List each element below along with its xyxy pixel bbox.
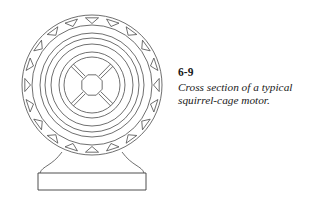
stator-slot-triangle bbox=[65, 143, 77, 150]
stator-slot-triangle bbox=[107, 143, 119, 150]
stator-slot-triangle bbox=[26, 58, 33, 70]
stator-slot-triangle bbox=[126, 135, 137, 143]
figure-page: 6-9 Cross section of a typical squirrel-… bbox=[0, 0, 336, 200]
figure-caption-block: 6-9 Cross section of a typical squirrel-… bbox=[178, 66, 330, 106]
stator-outer-frame bbox=[22, 15, 162, 155]
stator-slot-triangle bbox=[154, 78, 160, 91]
figure-number: 6-9 bbox=[178, 66, 330, 79]
caption-line-1: Cross section of a typical bbox=[178, 81, 330, 94]
concentric-rings-group bbox=[22, 15, 162, 155]
stator-slot-triangle bbox=[126, 27, 137, 35]
air-gap-ring bbox=[51, 44, 133, 126]
stator-slot-triangle bbox=[142, 40, 150, 51]
figure-caption-text: Cross section of a typical squirrel-cage… bbox=[178, 81, 330, 106]
stator-slot-triangle bbox=[47, 135, 58, 143]
stator-slot-triangle bbox=[47, 27, 58, 35]
stator-slot-triangle bbox=[150, 100, 157, 112]
stator-slot-triangle bbox=[25, 78, 31, 91]
stator-slot-triangle bbox=[142, 119, 150, 130]
rotor-inner bbox=[64, 57, 120, 113]
stator-slot-triangle bbox=[34, 40, 42, 51]
stator-slot-triangle bbox=[34, 119, 42, 130]
stator-slot-triangle bbox=[65, 19, 77, 26]
stator-core-outer bbox=[40, 33, 144, 137]
stator-slot-triangle bbox=[107, 19, 119, 26]
rotor-outer bbox=[59, 52, 125, 118]
stator-slot-triangle bbox=[85, 18, 98, 24]
stator-slot-triangle bbox=[26, 100, 33, 112]
stator-slot-triangle bbox=[85, 147, 98, 153]
base-plate bbox=[38, 173, 146, 190]
rotor-spokes-group bbox=[71, 64, 113, 106]
stator-slot-ring-outer bbox=[32, 25, 152, 145]
pedestal-group bbox=[38, 152, 146, 190]
stator-slot-triangle bbox=[150, 58, 157, 70]
caption-line-2: squirrel-cage motor. bbox=[178, 94, 330, 107]
shaft-hub-octagon bbox=[82, 75, 102, 95]
